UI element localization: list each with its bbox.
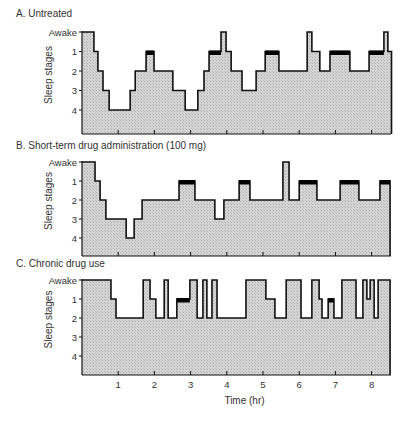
x-tick-label: 6 [297, 379, 302, 390]
x-tick-label: 2 [152, 379, 157, 390]
rem-bar [146, 51, 154, 56]
y-tick-label: 4 [72, 105, 77, 116]
y-tick-label: 4 [72, 351, 77, 362]
y-axis-title: Sleep stages [43, 291, 54, 349]
rem-bar [265, 51, 279, 56]
rem-bar [299, 180, 317, 185]
y-axis-title: Sleep stages [43, 172, 54, 230]
y-tick-label: Awake [49, 157, 77, 168]
y-tick-label: 3 [72, 332, 77, 343]
hypnogram-chart: Awake1234Sleep stagesAwake1234Sleep stag… [0, 0, 406, 425]
y-tick-label: 2 [72, 313, 77, 324]
y-tick-label: 1 [72, 294, 77, 305]
rem-bar [380, 180, 390, 185]
y-axis-title: Sleep stages [43, 46, 54, 104]
y-tick-label: 3 [72, 85, 77, 96]
x-tick-label: 3 [188, 379, 193, 390]
panel-a: Awake1234Sleep stages [43, 27, 392, 135]
rem-bar [328, 298, 334, 303]
y-tick-label: Awake [49, 275, 77, 286]
y-tick-label: 2 [72, 195, 77, 206]
rem-bar [340, 180, 359, 185]
rem-bar [209, 51, 221, 56]
y-tick-label: Awake [49, 27, 77, 38]
x-axis-title: Time (hr) [224, 395, 264, 406]
y-tick-label: 1 [72, 46, 77, 57]
y-tick-label: 1 [72, 176, 77, 187]
x-tick-label: 8 [369, 379, 374, 390]
rem-bar [177, 298, 190, 303]
y-tick-label: 2 [72, 66, 77, 77]
rem-bar [369, 51, 384, 56]
panel-c: Awake1234Sleep stages12345678Time (hr) [43, 275, 391, 407]
y-tick-label: 4 [72, 233, 77, 244]
x-tick-label: 7 [333, 379, 338, 390]
panel-b: Awake1234Sleep stages [43, 157, 391, 257]
rem-bar [239, 180, 250, 185]
rem-bar [179, 180, 195, 185]
y-tick-label: 3 [72, 214, 77, 225]
rem-bar [330, 51, 350, 56]
x-tick-label: 5 [260, 379, 265, 390]
x-tick-label: 1 [116, 379, 121, 390]
x-tick-label: 4 [224, 379, 229, 390]
